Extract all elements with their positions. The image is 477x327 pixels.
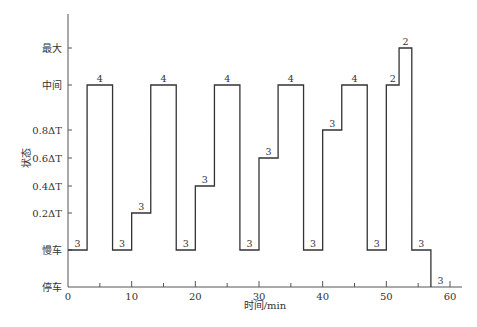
segment-label: 3 (246, 238, 252, 249)
y-tick-label: 中间 (42, 79, 62, 91)
x-tick-label: 20 (189, 291, 202, 302)
x-tick-label: 40 (316, 291, 329, 302)
y-tick-label: 0.4ΔT (32, 181, 62, 192)
segment-label: 3 (374, 238, 380, 249)
segment-label: 4 (351, 73, 357, 84)
segment-label: 3 (183, 238, 189, 249)
segment-label: 3 (119, 238, 125, 249)
y-tick-label: 慢车 (42, 244, 62, 256)
step-chart: 停车慢车0.2ΔT0.4ΔT0.6ΔT0.8ΔT中间最大 01020304050… (0, 0, 477, 327)
x-axis-title: 时间/min (244, 299, 287, 311)
x-tick-label: 50 (380, 291, 393, 302)
segment-label: 3 (310, 238, 316, 249)
x-tick-label: 60 (444, 291, 457, 302)
x-tick-label: 0 (65, 291, 71, 302)
segment-label: 4 (224, 73, 230, 84)
segment-label: 3 (75, 238, 81, 249)
segment-label: 3 (202, 174, 208, 185)
y-tick-label: 最大 (42, 42, 62, 54)
y-tick-label: 0.8ΔT (32, 125, 62, 136)
segment-label: 3 (418, 238, 424, 249)
x-ticks: 0102030405060 (65, 281, 457, 302)
segment-label: 4 (97, 73, 103, 84)
segment-label: 4 (160, 73, 166, 84)
y-tick-label: 0.2ΔT (32, 208, 62, 219)
y-axis-title: 状态 (20, 148, 32, 168)
segment-label: 2 (402, 36, 408, 47)
segment-label: 3 (329, 118, 335, 129)
segment-label: 2 (390, 73, 396, 84)
y-ticks: 停车慢车0.2ΔT0.4ΔT0.6ΔT0.8ΔT中间最大 (32, 42, 72, 293)
segment-label: 3 (138, 201, 144, 212)
y-tick-label: 0.6ΔT (32, 153, 62, 164)
segment-label: 3 (437, 275, 443, 286)
segment-label: 3 (266, 146, 272, 157)
segment-label: 4 (288, 73, 294, 84)
y-tick-label: 停车 (42, 281, 62, 293)
x-tick-label: 10 (125, 291, 138, 302)
state-trace (68, 48, 431, 287)
